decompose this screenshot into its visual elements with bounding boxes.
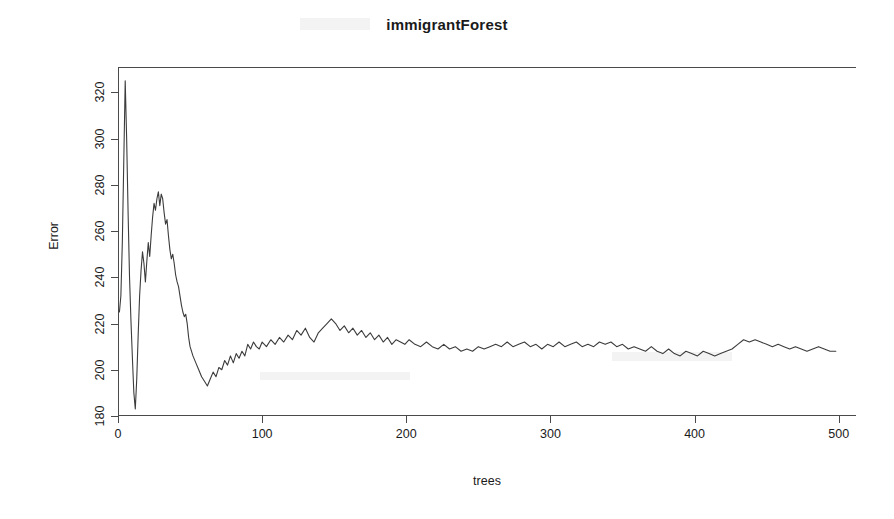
y-tick-mark [111, 416, 118, 417]
x-tick-mark [262, 416, 263, 423]
y-tick-mark [111, 370, 118, 371]
plot-area: 180200220240260280300320 010020030040050… [118, 67, 856, 416]
y-tick-label: 280 [94, 174, 107, 195]
y-tick-mark [111, 324, 118, 325]
plot-screenshot: immigrantForest Error trees 180200220240… [0, 0, 894, 519]
x-tick-label: 400 [684, 427, 705, 441]
y-tick-label: 300 [94, 128, 107, 149]
x-tick-mark [695, 416, 696, 423]
y-tick-mark [111, 139, 118, 140]
y-tick-label: 220 [94, 313, 107, 334]
x-tick-label: 100 [252, 427, 273, 441]
y-tick-label: 200 [94, 359, 107, 380]
y-tick-mark [111, 231, 118, 232]
y-tick-label: 260 [94, 221, 107, 242]
y-tick-label: 180 [94, 406, 107, 427]
x-tick-mark [406, 416, 407, 423]
x-tick-label: 300 [540, 427, 561, 441]
x-tick-mark [839, 416, 840, 423]
x-tick-mark [550, 416, 551, 423]
y-tick-label: 320 [94, 82, 107, 103]
x-axis-label: trees [118, 474, 856, 488]
y-tick-mark [111, 185, 118, 186]
series-line-chart [118, 67, 856, 416]
y-tick-mark [111, 92, 118, 93]
x-tick-label: 200 [396, 427, 417, 441]
y-tick-label: 240 [94, 267, 107, 288]
x-tick-label: 0 [115, 427, 122, 441]
y-axis-label: Error [47, 222, 61, 250]
y-tick-mark [111, 277, 118, 278]
x-tick-label: 500 [828, 427, 849, 441]
page-title: immigrantForest [0, 16, 894, 33]
x-tick-mark [118, 416, 119, 423]
